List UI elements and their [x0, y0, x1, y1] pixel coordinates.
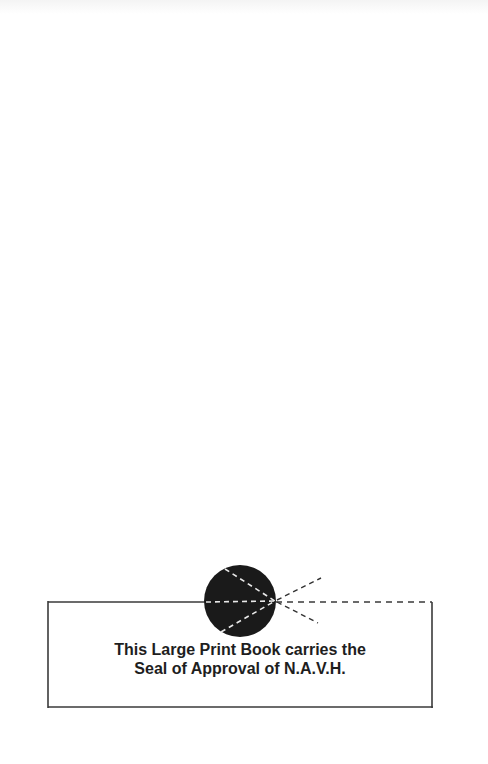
seal-of-approval-notice: This Large Print Book carries the Seal o…	[48, 640, 432, 678]
notice-line-2: Seal of Approval of N.A.V.H.	[48, 659, 432, 678]
eye-seal-icon	[204, 565, 321, 637]
book-page: This Large Print Book carries the Seal o…	[0, 0, 488, 764]
notice-line-1: This Large Print Book carries the	[48, 640, 432, 659]
